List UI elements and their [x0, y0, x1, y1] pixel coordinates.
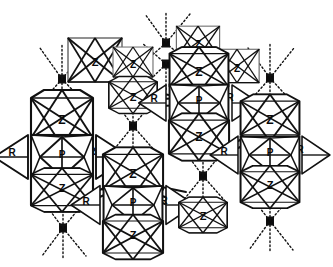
m-node-top-2: M	[162, 60, 170, 69]
r-label: R	[82, 196, 90, 207]
z-top-row: Z Z Z Z	[68, 26, 259, 83]
z-polyhedron-stray-bottom: Z	[179, 197, 227, 233]
z-label: Z	[130, 229, 137, 241]
z-polyhedron-top-b: Z	[113, 47, 153, 77]
m-label: M	[200, 172, 207, 181]
m-node-left-bottom: M	[59, 224, 67, 233]
m-node-right-bottom: M	[266, 217, 274, 226]
z-label: Z	[195, 65, 202, 79]
m-label: M	[163, 39, 170, 48]
r-wing-c4-right: R	[296, 136, 329, 174]
m-node-right-top: M	[266, 74, 274, 83]
m-label: M	[130, 122, 137, 131]
z-label: Z	[130, 91, 137, 103]
z-label: Z	[234, 63, 240, 74]
r-label: R	[150, 93, 158, 104]
m-label: M	[163, 60, 170, 69]
m-node-left-top: M	[58, 75, 66, 84]
r-label: R	[220, 146, 228, 157]
m-node-center-right: M	[199, 172, 207, 181]
z-label: Z	[59, 182, 66, 194]
m-label: M	[60, 224, 67, 233]
r-label: R	[8, 147, 16, 158]
z-label: Z	[92, 56, 99, 68]
m-label: M	[267, 74, 274, 83]
m-node-top-1: M	[162, 39, 170, 48]
z-label: Z	[130, 59, 136, 70]
z-label: Z	[267, 179, 274, 191]
z-polyhedron-c2-lower: Z	[103, 215, 163, 260]
z-polyhedron-c4-upper: Z	[241, 94, 300, 141]
z-label: Z	[129, 167, 136, 181]
z-label: Z	[195, 130, 202, 144]
m-node-center: M	[129, 122, 137, 131]
p-label: P	[130, 197, 137, 208]
m-label: M	[59, 75, 66, 84]
m-label: M	[267, 217, 274, 226]
z-label: Z	[266, 113, 273, 127]
p-label: P	[196, 95, 203, 106]
z-label: Z	[58, 113, 65, 127]
p-label: P	[267, 147, 274, 158]
r-wing-c1-left: R	[0, 135, 28, 179]
z-polyhedron-c4-lower: Z	[241, 166, 300, 209]
z-label: Z	[200, 210, 207, 222]
structure-diagram: Z Z Z Z	[0, 0, 333, 267]
figure-canvas: Z Z Z Z	[0, 0, 333, 267]
p-label: P	[59, 149, 66, 160]
